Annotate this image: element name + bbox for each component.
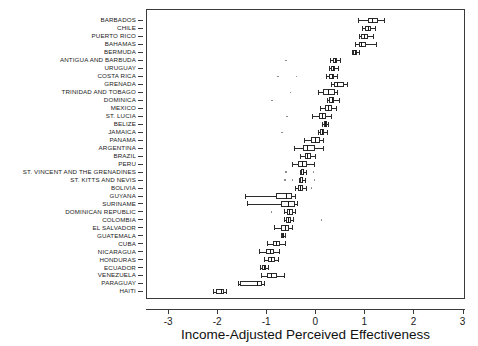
whisker-low (312, 116, 319, 117)
median-line (276, 241, 277, 246)
cap-low (318, 90, 319, 95)
cap-low (213, 289, 214, 294)
y-axis-label-el-salvador: EL SALVADOR (93, 224, 137, 232)
y-axis-tick (138, 196, 143, 197)
cap-high (284, 273, 285, 278)
cap-low (294, 146, 295, 151)
median-line (271, 257, 272, 262)
cap-high (376, 42, 377, 47)
cap-high (328, 122, 329, 127)
cap-high (306, 186, 307, 191)
y-axis-tick (138, 92, 143, 93)
x-axis-tick-label: -1 (262, 316, 271, 327)
cap-high (293, 217, 294, 222)
cap-high (323, 146, 324, 151)
cap-low (238, 281, 239, 286)
y-axis-label-puerto-rico: PUERTO RICO (92, 32, 136, 40)
median-line (288, 201, 289, 206)
x-axis-tick-label: -3 (164, 316, 173, 327)
y-axis-label-dominica: DOMINICA (104, 96, 136, 104)
cap-low (260, 265, 261, 270)
cap-low (284, 209, 285, 214)
y-axis-label-honduras: HONDURAS (99, 256, 136, 264)
outlier-point (292, 179, 293, 180)
box-iqr (303, 145, 316, 150)
median-line (325, 121, 326, 126)
outlier-point (285, 171, 286, 172)
y-axis-tick (138, 68, 143, 69)
cap-high (331, 114, 332, 119)
median-line (221, 289, 222, 294)
outlier-point (284, 179, 285, 180)
scan-artifact-strip (0, 0, 478, 8)
y-axis-label-chile: CHILE (117, 24, 136, 32)
whisker-high (307, 164, 314, 165)
boxplot-row (147, 288, 466, 297)
cap-high (336, 106, 337, 111)
boxplot-figure: BARBADOSCHILEPUERTO RICOBAHAMASBERMUDAAN… (0, 0, 478, 346)
cap-high (337, 90, 338, 95)
whisker-low (247, 204, 281, 205)
cap-high (337, 74, 338, 79)
y-axis-tick (138, 219, 143, 220)
y-axis-tick (138, 180, 143, 181)
median-line (285, 225, 286, 230)
cap-low (326, 74, 327, 79)
outlier-point (271, 211, 272, 212)
y-axis-tick (138, 44, 143, 45)
outlier-point (271, 100, 272, 101)
y-axis-tick (138, 235, 143, 236)
cap-low (261, 273, 262, 278)
x-axis-title: Income-Adjusted Perceived Effectiveness (146, 327, 465, 342)
y-axis-label-paraguay: PARAGUAY (101, 279, 136, 287)
y-axis-label-cuba: CUBA (118, 240, 136, 248)
x-axis-tick-label: 0 (313, 316, 319, 327)
median-line (355, 50, 356, 55)
y-axis-tick (138, 203, 143, 204)
y-axis-label-panama: PANAMA (109, 136, 136, 144)
whisker-low (259, 252, 266, 253)
cap-high (347, 82, 348, 87)
cap-high (264, 281, 265, 286)
median-line (332, 74, 333, 79)
median-line (368, 26, 369, 31)
median-line (300, 185, 301, 190)
median-line (283, 233, 284, 238)
median-line (328, 89, 329, 94)
median-line (328, 105, 329, 110)
x-axis-tick-3 (463, 309, 464, 314)
y-axis-tick (138, 36, 143, 37)
y-axis-label-uruguay: URUGUAY (104, 64, 136, 72)
y-axis-tick (138, 148, 143, 149)
y-axis-tick (138, 60, 143, 61)
y-axis-label-ecuador: ECUADOR (104, 264, 136, 272)
median-line (286, 193, 287, 198)
median-line (337, 82, 338, 87)
y-axis-tick (138, 116, 143, 117)
cap-low (355, 42, 356, 47)
cap-high (268, 265, 269, 270)
cap-high (292, 225, 293, 230)
y-axis-tick (138, 124, 143, 125)
cap-low (284, 217, 285, 222)
cap-high (285, 233, 286, 238)
y-axis-tick (138, 251, 143, 252)
whisker-high (277, 276, 284, 277)
y-axis-label-brazil: BRAZIL (113, 152, 136, 160)
cap-low (295, 186, 296, 191)
x-axis-tick-label: 3 (460, 316, 466, 327)
y-axis-label-argentina: ARGENTINA (99, 144, 136, 152)
cap-low (362, 26, 363, 31)
cap-high (315, 154, 316, 159)
whisker-high (366, 44, 376, 45)
x-axis-tick-1 (364, 309, 365, 314)
median-line (361, 42, 362, 47)
y-axis-tick (138, 283, 143, 284)
cap-high (340, 58, 341, 63)
cap-high (279, 249, 280, 254)
y-axis-label-guyana: GUYANA (109, 192, 136, 200)
outlier-point (296, 76, 297, 77)
y-axis-label-bermuda: BERMUDA (104, 48, 136, 56)
median-line (372, 18, 373, 23)
whisker-low (304, 140, 312, 141)
